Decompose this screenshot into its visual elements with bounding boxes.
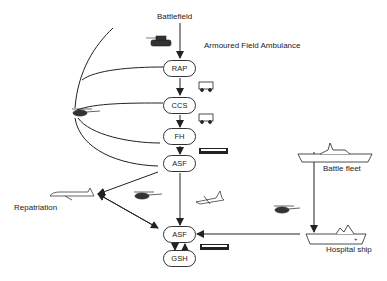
tank-icon xyxy=(146,36,171,46)
icon-layer: + xyxy=(0,0,387,281)
ambulance-icon xyxy=(199,114,213,124)
svg-text:+: + xyxy=(354,236,358,242)
airliner-icon xyxy=(50,188,94,200)
helicopter-icon xyxy=(72,109,100,116)
bus-icon xyxy=(200,244,229,250)
transport-plane-icon xyxy=(196,191,224,204)
warship-icon xyxy=(298,143,372,162)
ambulance-icon xyxy=(199,82,213,92)
bus-icon xyxy=(199,148,228,154)
hospital-ship-icon: + xyxy=(306,225,366,244)
helicopter-icon xyxy=(134,192,162,199)
helicopter-icon xyxy=(274,206,300,213)
